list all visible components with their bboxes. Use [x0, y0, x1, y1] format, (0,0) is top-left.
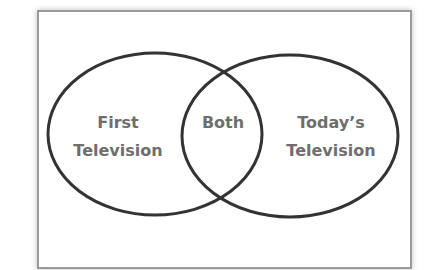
right-label-line1: Today’s	[297, 113, 365, 132]
right-label-line2: Television	[286, 141, 375, 160]
left-label-line2: Television	[73, 141, 162, 160]
left-circle-first-television	[48, 53, 262, 215]
venn-diagram: First Television Both Today’s Television	[0, 0, 427, 270]
right-circle-todays-television	[182, 55, 398, 217]
left-label-line1: First	[97, 113, 139, 132]
overlap-label: Both	[202, 113, 244, 132]
